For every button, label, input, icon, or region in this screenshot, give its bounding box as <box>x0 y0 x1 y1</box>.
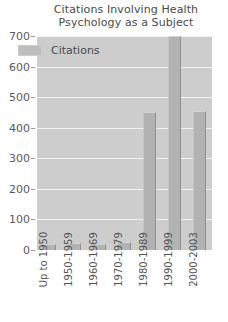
chart-title-line-2: Psychology as a Subject <box>28 16 224 29</box>
gridline-100 <box>37 219 212 220</box>
gridline-500 <box>37 97 212 98</box>
y-tick-mark-700 <box>31 36 35 37</box>
y-tick-label-200: 200 <box>9 182 30 195</box>
legend-label-citations: Citations <box>51 44 100 57</box>
bar-chart: Citations Involving Health Psychology as… <box>0 0 228 322</box>
x-tick-2000-2003: 2000-2003 <box>187 253 212 321</box>
y-tick-label-100: 100 <box>9 213 30 226</box>
gridline-700 <box>37 36 212 37</box>
chart-title: Citations Involving Health Psychology as… <box>28 3 224 29</box>
y-tick-label-300: 300 <box>9 152 30 165</box>
y-tick-mark-500 <box>31 97 35 98</box>
chart-legend: Citations <box>18 44 100 57</box>
bar-1990-1999 <box>168 36 181 250</box>
plot-area <box>37 36 212 250</box>
y-tick-mark-0 <box>31 250 35 251</box>
y-tick-mark-400 <box>31 128 35 129</box>
y-tick-mark-600 <box>31 67 35 68</box>
x-tick-label-2000-2003: 2000-2003 <box>187 232 198 287</box>
y-tick-label-600: 600 <box>9 60 30 73</box>
legend-swatch-citations <box>18 45 42 56</box>
chart-title-line-1: Citations Involving Health <box>28 3 224 16</box>
bar-2000-2003 <box>193 111 206 250</box>
y-tick-mark-200 <box>31 189 35 190</box>
gridline-300 <box>37 158 212 159</box>
gridline-200 <box>37 189 212 190</box>
y-tick-mark-300 <box>31 158 35 159</box>
y-axis: 0100200300400500600700 <box>0 36 35 250</box>
y-tick-label-700: 700 <box>9 30 30 43</box>
y-tick-label-500: 500 <box>9 91 30 104</box>
gridline-400 <box>37 128 212 129</box>
bar-1980-1989 <box>143 112 156 250</box>
gridline-600 <box>37 67 212 68</box>
y-tick-mark-100 <box>31 219 35 220</box>
x-axis: Up to 19501950-19591960-19691970-1979198… <box>37 250 212 322</box>
y-tick-label-400: 400 <box>9 121 30 134</box>
